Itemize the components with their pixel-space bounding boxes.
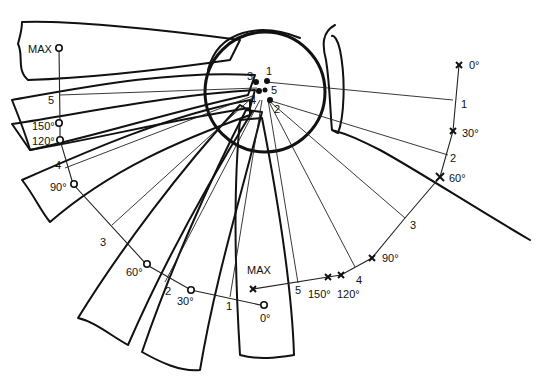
left-marker-60 [144, 261, 150, 267]
left-label-0: 0° [260, 312, 271, 324]
left-marker-90 [71, 181, 77, 187]
left-segment-1: 1 [226, 300, 232, 312]
center-label-5: 5 [271, 84, 277, 96]
left-segment-3: 3 [100, 236, 106, 248]
scapula-outline [324, 25, 530, 240]
left-segment-5: 5 [48, 94, 54, 106]
right-segment-4: 4 [356, 274, 362, 286]
left-label-max: MAX [28, 43, 53, 55]
center-label-4: 4 [250, 94, 256, 106]
center-point-2 [267, 97, 273, 103]
left-label-150: 150° [32, 120, 55, 132]
center-point-3 [253, 79, 259, 85]
right-label-150: 150° [308, 288, 331, 300]
left-segment-4: 4 [55, 159, 61, 171]
center-label-2: 2 [274, 103, 280, 115]
center-label-1: 1 [266, 65, 272, 77]
right-marker-60 [436, 173, 444, 181]
left-track: MAX 150° 120° 90° 60° 30° 0° 1 2 3 4 5 [28, 43, 271, 324]
right-label-30: 30° [462, 127, 479, 139]
center-point-5 [263, 88, 268, 93]
right-segment-5: 5 [295, 284, 301, 296]
left-marker-150 [56, 120, 62, 126]
left-marker-120 [57, 137, 63, 143]
right-label-60: 60° [449, 172, 466, 184]
left-marker-max [56, 45, 62, 51]
right-label-max: MAX [247, 264, 272, 276]
right-marker-90 [369, 255, 375, 261]
right-segment-2: 2 [450, 152, 456, 164]
left-label-60: 60° [126, 266, 143, 278]
center-point-4 [256, 88, 262, 94]
left-segment-2: 2 [165, 285, 171, 297]
left-label-90: 90° [50, 181, 67, 193]
left-marker-30 [188, 287, 194, 293]
right-segment-1: 1 [461, 98, 467, 110]
left-label-30: 30° [177, 295, 194, 307]
center-point-1 [264, 78, 270, 84]
right-track: 0° 30° 60° 90° 120° 150° MAX 1 2 3 4 5 [247, 59, 480, 300]
shoulder-kinematics-diagram: 3 1 4 5 2 MAX 150° 120° 90° 60° 30° 0° 1… [0, 0, 545, 376]
left-marker-0 [261, 302, 267, 308]
right-label-120: 120° [337, 288, 360, 300]
right-label-0: 0° [469, 59, 480, 71]
right-label-90: 90° [382, 252, 399, 264]
right-segment-3: 3 [410, 219, 416, 231]
center-label-3: 3 [247, 70, 253, 82]
left-label-120: 120° [32, 135, 55, 147]
